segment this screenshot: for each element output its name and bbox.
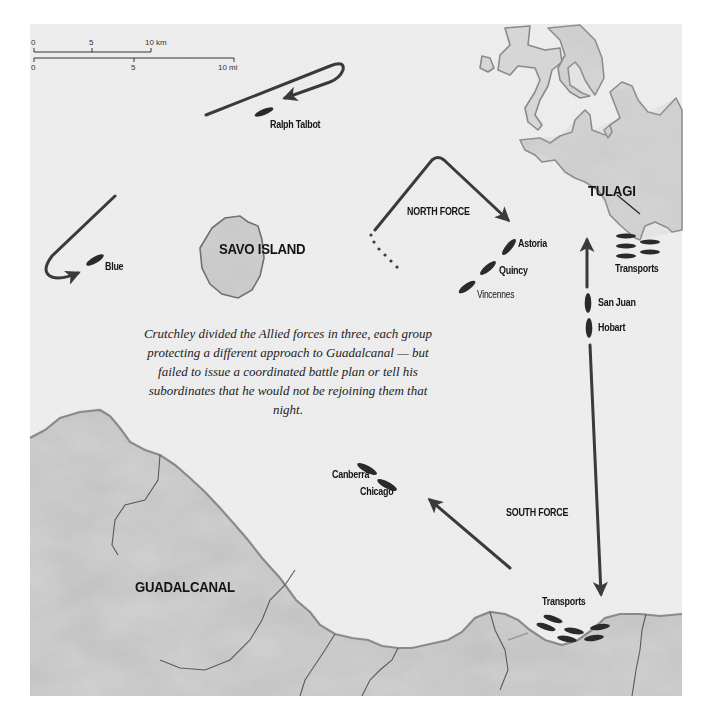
label-quincy: Quincy: [499, 264, 528, 276]
label-ralph-talbot: Ralph Talbot: [270, 118, 320, 130]
scale-mi-10: 10 mi: [218, 63, 238, 72]
label-south-force: SOUTH FORCE: [506, 506, 568, 518]
label-tulagi: TULAGI: [588, 182, 636, 199]
label-vincennes: Vincennes: [477, 289, 514, 300]
label-blue: Blue: [105, 260, 123, 272]
scale-mi-0: 0: [31, 63, 35, 72]
label-transports-guadalcanal: Transports: [542, 595, 586, 607]
label-hobart: Hobart: [598, 321, 625, 333]
map-caption: Crutchley divided the Allied forces in t…: [140, 324, 436, 419]
label-transports-tulagi: Transports: [615, 262, 659, 274]
scale-km-5: 5: [89, 38, 93, 47]
scale-mi-5: 5: [131, 63, 135, 72]
scale-km-0: 0: [31, 38, 35, 47]
ship-hobart: [586, 318, 593, 338]
label-north-force: NORTH FORCE: [407, 205, 470, 217]
label-san-juan: San Juan: [598, 296, 636, 308]
label-astoria: Astoria: [518, 237, 547, 249]
label-chicago: Chicago: [360, 485, 393, 497]
label-canberra: Canberra: [332, 468, 369, 480]
label-savo-island: SAVO ISLAND: [219, 240, 305, 257]
ship-san-juan: [585, 293, 592, 313]
scale-km-10: 10 km: [145, 38, 167, 47]
label-guadalcanal: GUADALCANAL: [135, 578, 235, 595]
